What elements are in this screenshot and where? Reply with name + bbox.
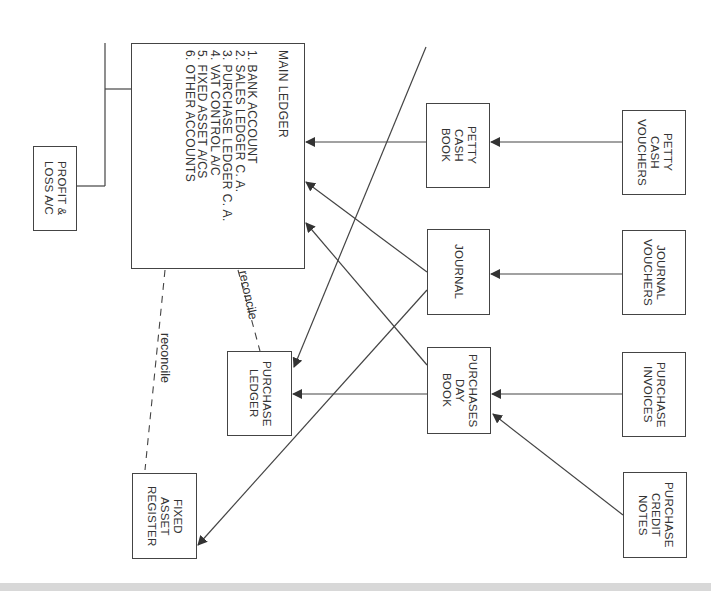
purchase-invoices-label: PURCHASE INVOICES — [641, 362, 667, 428]
reconcile-label-fixed-asset: reconcile — [158, 333, 172, 383]
profit-loss-label: PROFIT & LOSS A/C — [42, 161, 68, 215]
diagram-canvas: MAIN LEDGER 1. BANK ACCOUNT 2. SALES LED… — [0, 0, 711, 591]
main-ledger-item: 6. OTHER ACCOUNTS — [183, 50, 196, 222]
purchase-invoices-box: PURCHASE INVOICES — [622, 352, 686, 437]
petty-cash-vouchers-label: PETTY CASH VOUCHERS — [635, 119, 674, 186]
journal-label: JOURNAL — [452, 244, 465, 299]
petty-cash-book-box: PETTY CASH BOOK — [426, 103, 490, 188]
purchase-credit-notes-label: PURCHASE CREDIT NOTES — [636, 482, 675, 548]
journal-box: JOURNAL — [427, 229, 490, 315]
journal-vouchers-label: JOURNAL VOUCHERS — [641, 239, 667, 306]
profit-loss-box: PROFIT & LOSS A/C — [33, 146, 77, 231]
connector-layer — [0, 0, 711, 591]
purchase-ledger-label: PURCHASE LEDGER — [247, 361, 273, 427]
main-ledger-item: 3. PURCHASE LEDGER C. A. — [221, 50, 234, 222]
petty-cash-vouchers-box: PETTY CASH VOUCHERS — [622, 110, 686, 195]
main-ledger-box: MAIN LEDGER 1. BANK ACCOUNT 2. SALES LED… — [131, 43, 305, 269]
purchases-day-book-box: PURCHASES DAY BOOK — [427, 347, 491, 434]
petty-cash-book-label: PETTY CASH BOOK — [439, 126, 478, 164]
journal-vouchers-box: JOURNAL VOUCHERS — [622, 230, 686, 315]
purchase-ledger-box: PURCHASE LEDGER — [227, 351, 292, 436]
main-ledger-item: 2. SALES LEDGER C. A. — [233, 50, 246, 222]
purchase-credit-notes-box: PURCHASE CREDIT NOTES — [623, 472, 687, 558]
fixed-asset-register-box: FIXED ASSET REGISTER — [132, 473, 197, 559]
main-ledger-title: MAIN LEDGER — [276, 50, 290, 222]
fixed-asset-register-label: FIXED ASSET REGISTER — [145, 486, 184, 546]
bottom-band — [0, 583, 711, 591]
main-ledger-account-list: 1. BANK ACCOUNT 2. SALES LEDGER C. A. 3.… — [183, 50, 258, 222]
main-ledger-item: 1. BANK ACCOUNT — [246, 50, 259, 222]
main-ledger-item: 5. FIXED ASSET A/CS — [196, 50, 209, 222]
purchases-day-book-label: PURCHASES DAY BOOK — [440, 354, 479, 427]
main-ledger-item: 4. VAT CONTROL A/C — [208, 50, 221, 222]
